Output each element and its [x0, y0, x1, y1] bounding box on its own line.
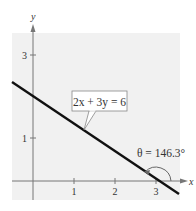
plot-background	[12, 33, 180, 200]
angle-label: θ = 146.3°	[137, 147, 186, 159]
y-axis-label: y	[30, 11, 36, 22]
y-axis-arrow-icon	[31, 24, 36, 32]
x-axis-arrow-icon	[180, 179, 188, 184]
y-tick-label-1: 1	[22, 133, 27, 144]
equation-label: 2x + 3y = 6	[73, 96, 126, 109]
y-tick-label-3: 3	[22, 50, 27, 61]
plot-svg: x 1 2 3 y 3 1 2x + 3y = 6	[0, 0, 196, 211]
x-tick-label-1: 1	[72, 186, 77, 197]
x-tick-label-2: 2	[113, 186, 118, 197]
x-axis-label: x	[188, 176, 194, 187]
line-graph-figure: x 1 2 3 y 3 1 2x + 3y = 6	[0, 0, 196, 211]
x-tick-label-3: 3	[154, 186, 159, 197]
